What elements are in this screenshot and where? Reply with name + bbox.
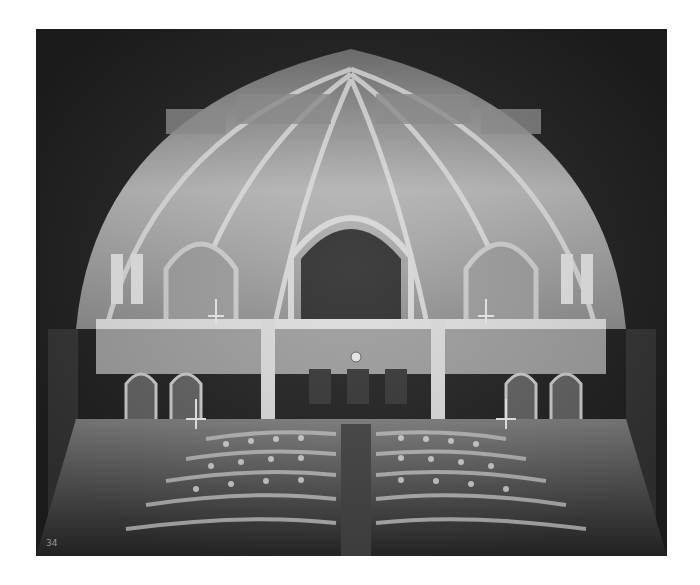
chamber-illustration	[36, 29, 667, 556]
corner-mark: 34	[46, 538, 57, 548]
photograph: 34	[36, 29, 667, 556]
